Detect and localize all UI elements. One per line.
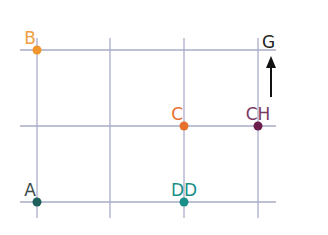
point-label-ch: CH (246, 104, 271, 124)
point-label-a: A (24, 180, 36, 200)
point-label-b: B (24, 28, 36, 48)
north-arrow-icon (266, 56, 276, 68)
compass: G (262, 32, 276, 97)
compass-label: G (262, 32, 275, 52)
grid (20, 38, 276, 218)
grid-diagram: BCCHADD G (0, 0, 328, 235)
point-label-dd: DD (171, 180, 197, 200)
points: BCCHADD (24, 28, 270, 207)
point-label-c: C (171, 104, 183, 124)
